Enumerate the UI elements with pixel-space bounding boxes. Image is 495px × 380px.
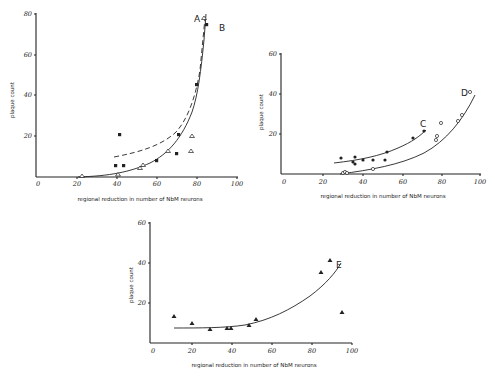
x-tick-label: 80 [438, 178, 446, 186]
y-axis-title: plaque count [128, 266, 135, 303]
x-axis-title: regional reduction in number of NbM neur… [191, 362, 316, 369]
y-tick-label: 60 [269, 50, 277, 58]
chart-ab: 20 40 60 80 0 20 40 60 80 100 regional r… [9, 10, 243, 203]
x-tick-label: 100 [474, 178, 486, 186]
x-axis-title: regional reduction in number of NbM neur… [320, 193, 445, 200]
chart-e: 20 40 60 0 20 40 60 80 100 regional redu… [128, 219, 358, 369]
x-tick-label: 100 [346, 347, 358, 355]
x-tick-label: 20 [72, 180, 81, 188]
y-axis-title: plaque count [258, 93, 265, 130]
x-tick-label: 40 [227, 347, 236, 355]
x-tick-label: 20 [318, 178, 327, 186]
y-tick-label: 20 [137, 299, 146, 307]
curve-label-b: B [219, 23, 225, 33]
x-tick-label: 0 [151, 347, 155, 355]
x-tick-label: 80 [193, 180, 201, 188]
y-tick-label: 40 [268, 90, 277, 98]
series-b-points [114, 23, 208, 167]
x-tick-label: 40 [112, 180, 121, 188]
fit-curve-d [340, 95, 475, 174]
series-a-points [80, 16, 207, 178]
fit-curve-e [174, 263, 341, 328]
curve-label-c: C [420, 119, 426, 129]
curve-label-e: E [336, 260, 342, 270]
fit-curve-a [78, 14, 206, 177]
x-tick-label: 80 [308, 347, 316, 355]
x-tick-label: 60 [399, 178, 407, 186]
x-tick-label: 0 [282, 178, 286, 186]
y-tick-label: 20 [23, 132, 32, 140]
y-tick-label: 40 [23, 91, 32, 99]
curve-label-a: A [194, 14, 201, 24]
x-axis-title: regional reduction in number of NbM neur… [77, 196, 202, 203]
figure-canvas: 20 40 60 80 0 20 40 60 80 100 regional r… [0, 0, 495, 380]
y-tick-label: 80 [24, 10, 32, 18]
y-tick-label: 20 [268, 130, 277, 138]
series-d-points [341, 90, 471, 174]
x-tick-label: 40 [358, 178, 367, 186]
x-tick-label: 60 [153, 180, 161, 188]
x-tick-label: 100 [231, 180, 243, 188]
y-axis-title: plaque count [9, 81, 16, 118]
y-tick-label: 40 [137, 259, 146, 267]
y-tick-label: 60 [138, 219, 146, 227]
x-tick-label: 0 [36, 180, 40, 188]
curve-label-d: D [461, 88, 468, 98]
x-tick-label: 20 [187, 347, 196, 355]
chart-cd: 20 40 60 0 20 40 60 80 100 regional redu… [258, 50, 486, 200]
y-tick-label: 60 [24, 51, 32, 59]
series-e-points [172, 258, 345, 331]
x-tick-label: 60 [268, 347, 276, 355]
